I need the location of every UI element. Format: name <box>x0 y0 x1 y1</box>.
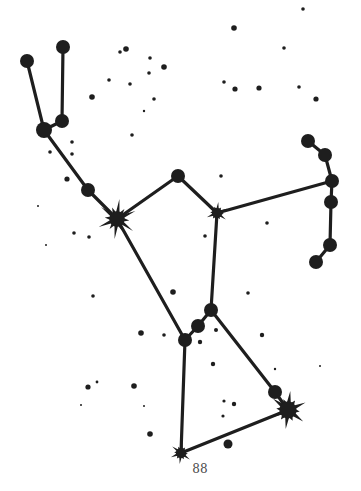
background-star-icon <box>148 56 152 60</box>
star-dot-icon <box>323 238 337 252</box>
background-star-icon <box>301 7 305 11</box>
background-star-icon <box>297 85 301 89</box>
star-dot-icon <box>324 195 338 209</box>
background-star-icon <box>147 71 151 75</box>
background-star-icon <box>170 289 176 295</box>
star-dot-icon <box>36 122 52 138</box>
star-dot-icon <box>325 174 339 188</box>
constellation-line <box>178 176 217 213</box>
background-star-icon <box>128 82 132 86</box>
constellation-stars <box>20 40 339 464</box>
background-star-icon <box>214 328 218 332</box>
background-star-icon <box>282 46 286 50</box>
background-star-icon <box>274 368 276 370</box>
background-star-icon <box>147 431 153 437</box>
background-star-icon <box>70 140 74 144</box>
background-star-icon <box>96 381 99 384</box>
background-star-icon <box>107 78 111 82</box>
background-star-icon <box>91 294 95 298</box>
constellation-line <box>211 213 217 310</box>
star-dot-icon <box>81 183 95 197</box>
constellation-line <box>181 410 288 453</box>
background-star-icon <box>198 340 202 344</box>
background-star-icon <box>231 25 237 31</box>
background-star-icon <box>152 97 156 101</box>
background-star-icon <box>232 402 236 406</box>
star-dot-icon <box>301 134 315 148</box>
constellation-line <box>62 47 63 121</box>
constellation-line <box>117 219 185 340</box>
background-star-icon <box>246 291 250 295</box>
background-star-icon <box>70 152 74 156</box>
background-star-icon <box>89 94 95 100</box>
page-number: 88 <box>0 462 361 476</box>
star-dot-icon <box>56 40 70 54</box>
star-core-icon <box>212 208 222 218</box>
background-star-icon <box>161 64 167 70</box>
background-star-icon <box>45 244 47 246</box>
star-dot-icon <box>55 114 69 128</box>
background-star-icon <box>221 414 224 417</box>
background-star-icon <box>222 399 225 402</box>
background-star-icon <box>143 110 145 112</box>
background-stars <box>37 7 321 448</box>
background-star-icon <box>203 234 207 238</box>
background-star-icon <box>72 231 76 235</box>
background-star-icon <box>130 133 134 137</box>
background-star-icon <box>224 440 233 449</box>
star-core-icon <box>109 211 124 226</box>
background-star-icon <box>48 150 52 154</box>
star-core-icon <box>280 402 297 419</box>
background-star-icon <box>222 80 226 84</box>
star-dot-icon <box>191 319 205 333</box>
star-dot-icon <box>318 148 332 162</box>
star-dot-icon <box>268 385 282 399</box>
background-star-icon <box>123 46 129 52</box>
star-dot-icon <box>178 333 192 347</box>
constellation-line <box>117 176 178 219</box>
constellation-line <box>211 310 275 392</box>
background-star-icon <box>256 85 261 90</box>
background-star-icon <box>260 333 264 337</box>
background-star-icon <box>211 362 215 366</box>
star-dot-icon <box>204 303 218 317</box>
background-star-icon <box>143 405 145 407</box>
constellation-line <box>217 181 332 213</box>
background-star-icon <box>232 86 237 91</box>
constellation-line <box>27 61 44 130</box>
star-dot-icon <box>309 255 323 269</box>
constellation-diagram <box>0 0 361 491</box>
background-star-icon <box>138 330 144 336</box>
background-star-icon <box>319 365 321 367</box>
star-dot-icon <box>171 169 185 183</box>
star-dot-icon <box>20 54 34 68</box>
background-star-icon <box>37 205 39 207</box>
constellation-line <box>181 340 185 453</box>
background-star-icon <box>85 384 90 389</box>
background-star-icon <box>265 221 269 225</box>
background-star-icon <box>162 333 166 337</box>
background-star-icon <box>64 176 69 181</box>
star-core-icon <box>176 448 186 458</box>
background-star-icon <box>131 383 137 389</box>
background-star-icon <box>313 96 318 101</box>
constellation-lines <box>27 47 332 453</box>
background-star-icon <box>118 50 122 54</box>
background-star-icon <box>80 404 82 406</box>
background-star-icon <box>219 174 223 178</box>
background-star-icon <box>87 235 91 239</box>
